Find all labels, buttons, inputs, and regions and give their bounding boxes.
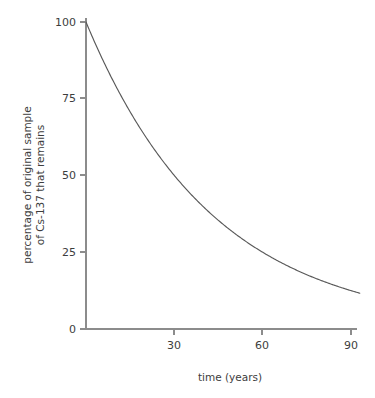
x-tick-label-30: 30 [167,339,181,352]
y-axis-title-line1: percentage of original sample [21,106,33,263]
y-tick-label-0: 0 [69,323,76,336]
x-tick-label-90: 90 [344,339,358,352]
y-tick-label-25: 25 [62,246,76,259]
y-tick-label-100: 100 [55,16,76,29]
x-axis-title: time (years) [198,371,262,383]
y-axis-title-line2: of Cs-137 that remains [34,125,46,245]
y-tick-label-75: 75 [62,92,76,105]
decay-chart-figure: 100 75 50 25 0 30 60 90 time (years) per… [0,0,375,398]
chart-plot-area: 100 75 50 25 0 30 60 90 time (years) per… [0,0,375,398]
y-tick-label-50: 50 [62,169,76,182]
decay-curve-line [86,22,360,293]
x-tick-label-60: 60 [255,339,269,352]
